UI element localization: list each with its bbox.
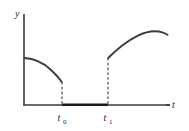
y-axis-label: y [14, 8, 20, 19]
x-tick-label-t1-base: t [104, 112, 107, 123]
curve-branch-before-t0 [24, 58, 61, 82]
x-tick-label-t1: t 1 [104, 112, 114, 126]
x-tick-label-t1-subscript: 1 [109, 118, 113, 126]
figure-container: y t t 0 t 1 [0, 0, 189, 131]
x-axis-label: t [172, 99, 175, 110]
x-tick-label-t0-subscript: 0 [63, 118, 67, 126]
piecewise-function-plot: y t t 0 t 1 [0, 0, 189, 131]
curve-branch-after-t1 [108, 31, 167, 58]
x-tick-label-t0-base: t [58, 112, 61, 123]
x-tick-label-t0: t 0 [58, 112, 68, 126]
